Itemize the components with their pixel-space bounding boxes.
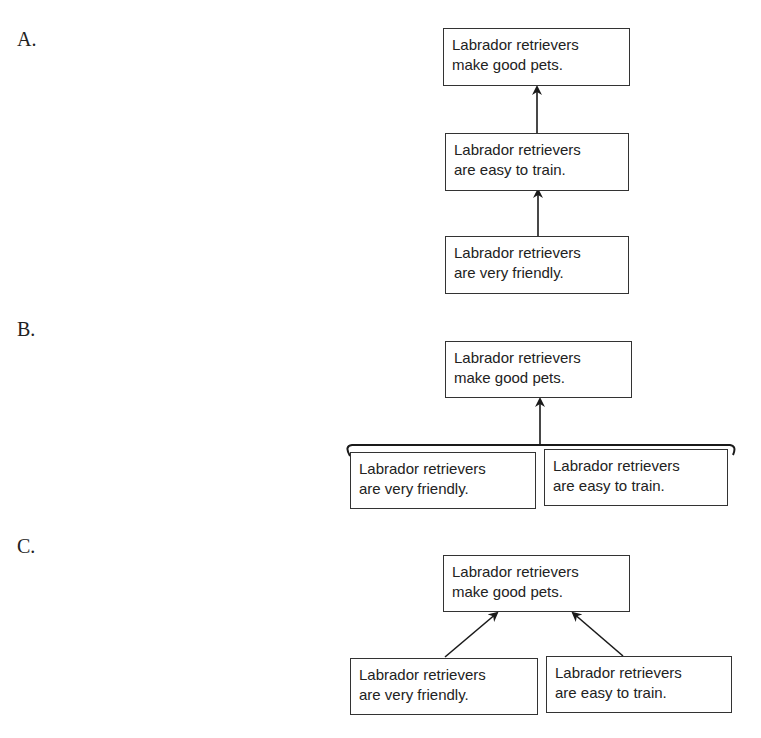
b-box-right: Labrador retrievers are easy to train. xyxy=(544,449,728,506)
a-box-top: Labrador retrievers make good pets. xyxy=(443,28,630,86)
c-box-left: Labrador retrievers are very friendly. xyxy=(350,658,538,715)
a-box-bottom: Labrador retrievers are very friendly. xyxy=(445,236,629,294)
c-box-top: Labrador retrievers make good pets. xyxy=(443,555,630,612)
b-box-left: Labrador retrievers are very friendly. xyxy=(350,452,536,509)
connectors xyxy=(0,0,761,738)
c-box-right: Labrador retrievers are easy to train. xyxy=(546,656,732,713)
a-box-middle: Labrador retrievers are easy to train. xyxy=(445,133,629,191)
b-box-top: Labrador retrievers make good pets. xyxy=(445,341,632,398)
arrow-c-left-to-top xyxy=(445,613,497,657)
arrow-c-right-to-top xyxy=(573,613,623,656)
